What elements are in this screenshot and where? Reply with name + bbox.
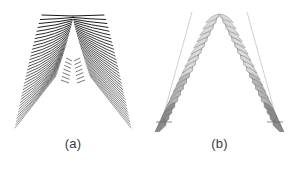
panel-a: (a) <box>0 0 146 171</box>
figure-root: (a) (b) <box>0 0 293 171</box>
panel-a-caption: (a) <box>0 136 146 152</box>
panel-b-caption: (b) <box>146 136 293 152</box>
panel-a-svg <box>0 0 146 132</box>
panel-b-right-arm <box>220 12 286 132</box>
panel-b-left-arm <box>153 12 219 132</box>
panel-a-right-arm <box>73 15 131 128</box>
panel-b-base-ticks <box>156 118 283 122</box>
panel-b: (b) <box>146 0 293 171</box>
panel-a-left-arm <box>15 15 85 128</box>
panel-a-artwork <box>0 0 146 132</box>
panel-b-svg <box>146 0 293 132</box>
panel-b-artwork <box>146 0 293 132</box>
